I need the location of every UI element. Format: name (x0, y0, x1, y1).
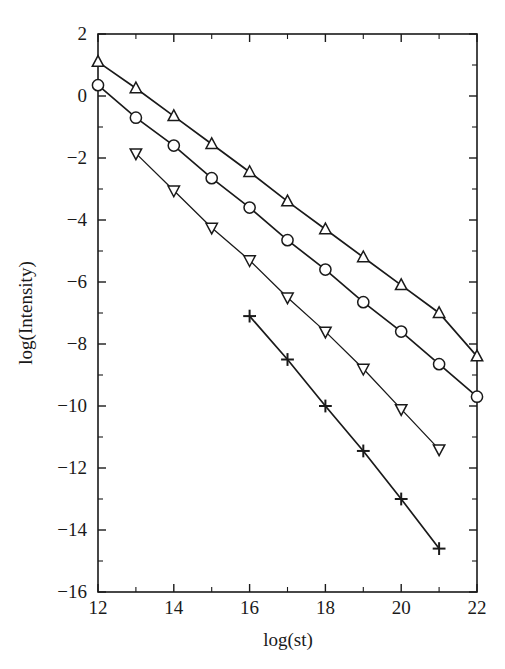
y-tick-label--6: −6 (67, 271, 87, 292)
y-tick-label-0: 0 (78, 85, 88, 106)
marker-circle-1-10 (471, 391, 482, 402)
marker-circle-1-7 (358, 297, 369, 308)
y-tick-label--14: −14 (57, 519, 87, 540)
x-tick-label-22: 22 (468, 597, 487, 618)
marker-circle-1-6 (320, 264, 331, 275)
marker-circle-1-5 (282, 235, 293, 246)
y-tick-label-2: 2 (78, 23, 88, 44)
marker-circle-1-1 (130, 112, 141, 123)
x-tick-label-12: 12 (89, 597, 108, 618)
x-tick-label-18: 18 (316, 597, 335, 618)
marker-circle-1-2 (168, 140, 179, 151)
marker-circle-1-9 (434, 359, 445, 370)
y-tick-label--8: −8 (67, 333, 87, 354)
y-axis-title: log(Intensity) (15, 261, 37, 364)
marker-circle-1-3 (206, 173, 217, 184)
x-tick-label-14: 14 (164, 597, 184, 618)
y-tick-label--10: −10 (57, 395, 87, 416)
x-tick-label-16: 16 (240, 597, 259, 618)
marker-circle-1-4 (244, 202, 255, 213)
y-tick-label--16: −16 (57, 581, 87, 602)
x-axis-title: log(st) (263, 629, 313, 651)
chart-figure: 121416182022 20−2−4−6−8−10−12−14−16 log(… (0, 0, 505, 669)
y-tick-label--4: −4 (67, 209, 88, 230)
y-tick-label--2: −2 (67, 147, 87, 168)
chart-canvas: 121416182022 20−2−4−6−8−10−12−14−16 log(… (0, 0, 505, 669)
marker-circle-1-0 (92, 80, 103, 91)
marker-circle-1-8 (396, 326, 407, 337)
y-tick-label--12: −12 (57, 457, 87, 478)
x-tick-label-20: 20 (392, 597, 411, 618)
